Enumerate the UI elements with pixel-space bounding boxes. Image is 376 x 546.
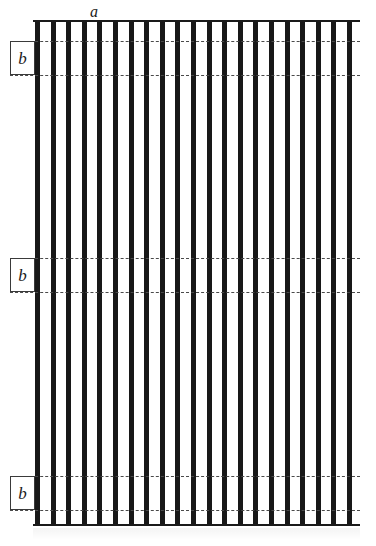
grating-bar xyxy=(160,22,165,524)
dimension-label-b: b xyxy=(18,267,27,284)
grating-bar xyxy=(113,22,118,524)
grating-bar xyxy=(316,22,321,524)
grating-bar xyxy=(35,22,40,524)
grating-bar xyxy=(300,22,305,524)
grating-bar xyxy=(66,22,71,524)
grating-bar xyxy=(51,22,56,524)
technical-drawing-figure: a bbb xyxy=(0,0,376,546)
scan-artifact xyxy=(33,528,360,540)
grating-bar xyxy=(191,22,196,524)
grating-bar xyxy=(253,22,258,524)
dimension-label-a: a xyxy=(90,4,98,20)
grating-plate xyxy=(33,20,360,526)
grating-bar xyxy=(129,22,134,524)
grating-bar xyxy=(207,22,212,524)
grating-bar xyxy=(175,22,180,524)
dimension-label-b: b xyxy=(18,50,27,67)
plate-bottom-edge xyxy=(33,524,360,526)
dimension-box-b-3: b xyxy=(10,476,35,510)
grating-bar xyxy=(331,22,336,524)
grating-bar xyxy=(144,22,149,524)
grating-bar xyxy=(222,22,227,524)
grating-bar xyxy=(238,22,243,524)
dimension-box-b-2: b xyxy=(10,258,35,292)
dimension-box-b-1: b xyxy=(10,41,35,75)
grating-bar xyxy=(269,22,274,524)
grating-bar xyxy=(285,22,290,524)
dimension-label-b: b xyxy=(18,485,27,502)
grating-bar xyxy=(347,22,352,524)
grating-bar xyxy=(97,22,102,524)
grating-bar xyxy=(82,22,87,524)
